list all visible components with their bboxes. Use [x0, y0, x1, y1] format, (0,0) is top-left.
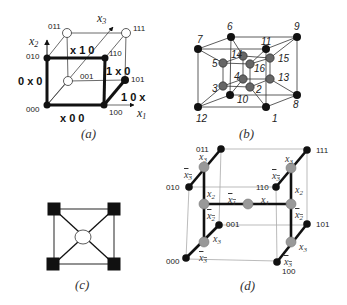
center-node — [75, 230, 91, 244]
literal-x2bar-l: x2 — [206, 210, 215, 223]
label-110: 110 — [109, 49, 122, 58]
node-011 — [63, 29, 72, 38]
label-101: 101 — [316, 220, 330, 229]
node-100 — [101, 102, 108, 109]
label-000: 000 — [166, 257, 180, 266]
caption-c: (c) — [75, 277, 89, 292]
label-14: 14 — [231, 49, 243, 60]
label-3: 3 — [212, 83, 218, 94]
label-000: 000 — [26, 105, 40, 114]
literal-x3bar-tr: x3 — [271, 170, 280, 183]
figure-canvas: 011 111 010 110 001 101 000 100 x 1 0 0 … — [0, 0, 347, 305]
literal-x3-tr: x3 — [284, 153, 293, 166]
panel-b-tesseract: 6 9 7 11 10 8 12 1 14 15 5 16 4 13 3 2 (… — [194, 21, 301, 141]
label-4: 4 — [234, 71, 240, 82]
label-16: 16 — [254, 63, 266, 74]
label-001: 001 — [226, 220, 240, 229]
label-11: 11 — [261, 36, 271, 47]
panel-c-graph: (c) — [47, 203, 121, 293]
corner-node-br — [108, 258, 121, 271]
node-3 — [219, 82, 227, 90]
literal-x3-br: x3 — [298, 241, 307, 254]
label-1: 1 — [272, 113, 278, 124]
label-7: 7 — [197, 34, 203, 45]
label-010: 010 — [166, 183, 180, 192]
literal-x3bar-tl: x3 — [183, 169, 192, 182]
literal-x2-l: x2 — [206, 188, 215, 201]
axis-label-x2: x2 — [28, 34, 38, 49]
label-110: 110 — [256, 183, 269, 192]
label-010: 010 — [26, 52, 40, 61]
node-010 — [44, 55, 51, 62]
corner-node-tr — [108, 203, 121, 216]
node-10 — [226, 91, 234, 99]
literal-x2-r: x2 — [294, 184, 303, 197]
caption-b: (b) — [239, 126, 254, 141]
axis-label-x3: x3 — [96, 11, 106, 26]
label-9: 9 — [294, 21, 300, 32]
label-12: 12 — [196, 113, 208, 124]
edge-label-diag: 1 0 x — [121, 91, 146, 103]
label-101: 101 — [131, 75, 145, 84]
node-111 — [122, 29, 131, 38]
label-111: 111 — [133, 24, 146, 33]
label-13: 13 — [278, 72, 290, 83]
node-13 — [266, 75, 274, 83]
node-2 — [246, 83, 254, 91]
label-15: 15 — [278, 53, 290, 64]
label-6: 6 — [227, 21, 233, 32]
literal-x2bar-r: x2 — [294, 209, 303, 222]
label-8: 8 — [293, 99, 299, 110]
node-1 — [262, 103, 270, 111]
edge-label-left: 0 x 0 — [18, 75, 42, 87]
node-4 — [239, 75, 247, 83]
caption-a: (a) — [81, 126, 96, 141]
edge-label-right: 1 x 0 — [106, 65, 130, 77]
label-10: 10 — [237, 94, 249, 105]
node-101 — [121, 76, 129, 84]
label-111: 111 — [316, 146, 329, 155]
label-100: 100 — [109, 108, 123, 117]
edge-label-bottom: x 0 0 — [60, 112, 84, 124]
literal-x3-bl: x3 — [212, 233, 221, 246]
node-6 — [227, 33, 235, 41]
panel-a-cube: 011 111 010 110 001 101 000 100 x 1 0 0 … — [18, 11, 146, 141]
node-7 — [194, 45, 202, 53]
node-8 — [293, 91, 301, 99]
corner-node-tl — [48, 203, 61, 216]
node-000 — [44, 102, 51, 109]
label-001: 001 — [80, 72, 94, 81]
node-5 — [219, 59, 227, 67]
literal-x3bar-bl: x3 — [198, 252, 207, 265]
node-15 — [266, 54, 274, 62]
edge-label-top: x 1 0 — [70, 44, 94, 56]
corner-node-bl — [47, 258, 60, 271]
node-001 — [64, 77, 73, 86]
label-011: 011 — [48, 22, 61, 31]
node-12 — [194, 103, 202, 111]
node-16 — [246, 60, 254, 68]
label-5: 5 — [212, 58, 218, 69]
node-9 — [293, 33, 301, 41]
label-2: 2 — [255, 84, 262, 95]
caption-d: (d) — [240, 278, 255, 293]
axis-label-x1: x1 — [136, 106, 146, 121]
panel-d-circuit-cube: 011 111 010 110 001 101 000 100 x3 x3 x2… — [166, 145, 330, 293]
node-110 — [102, 55, 109, 62]
